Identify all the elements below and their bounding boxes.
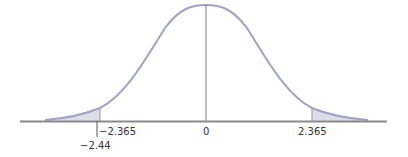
test-stat-label: −2.44 xyxy=(80,140,111,151)
left-critical-label: −2.365 xyxy=(99,126,136,137)
center-label: 0 xyxy=(203,126,209,137)
right-critical-label: 2.365 xyxy=(298,126,327,137)
